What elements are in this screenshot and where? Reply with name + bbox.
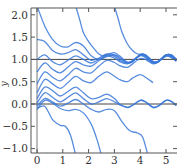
x-axis-ticks: 012345 [34,8,170,164]
y-tick-label: 2.0 [11,9,28,21]
axes-frame [31,8,177,153]
x-tick-label: 3 [111,154,118,164]
y-tick-label: 0.5 [11,76,28,88]
y-tick-label: −1.0 [3,142,29,154]
y-tick-label: 1.5 [11,31,28,43]
curve-13 [114,6,176,62]
reference-lines [31,8,177,153]
chart: −1.0−0.50.00.51.01.52.0 012345 y [0,0,177,164]
x-tick-label: 5 [163,154,170,164]
y-tick-label: −0.5 [3,120,29,132]
y-axis-label: y [0,81,9,88]
x-tick-label: 0 [34,154,41,164]
curve-12 [76,6,177,63]
y-tick-label: 1.0 [11,53,28,65]
solution-curves [37,6,176,155]
y-tick-label: 0.0 [11,98,28,110]
x-tick-label: 4 [137,154,144,164]
curve-6 [37,72,153,93]
curve-11 [37,106,76,156]
x-tick-label: 2 [85,154,92,164]
curve-5 [37,56,176,84]
x-tick-label: 1 [59,154,66,164]
